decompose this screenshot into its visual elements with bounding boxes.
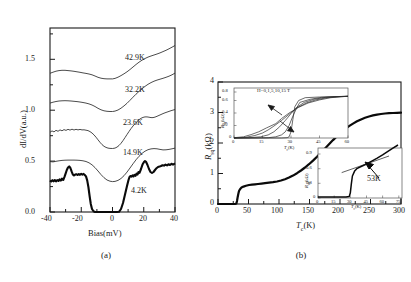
inset1-y-axis-title-unit: (kΩ)	[220, 114, 225, 123]
panel-b-xtick-1: 50	[243, 206, 251, 215]
panel-b-ytick-3: 3	[210, 107, 214, 116]
panel-b-xtick-0: 0	[215, 206, 219, 215]
inset2-xtick-1: 15	[331, 199, 336, 204]
inset2-ytick-3: 0.9	[306, 150, 312, 155]
inset1-x-axis-title: Tc(K)	[284, 145, 294, 152]
curve-14-9k	[50, 148, 175, 182]
panel-a-ytick-1: 0.5	[25, 156, 35, 165]
panel-b-caption: (b)	[281, 250, 321, 260]
inset2-xtick-0: 0	[316, 199, 318, 204]
inset2-y-axis-title-unit: (kΩ)	[304, 174, 309, 183]
panel-b-y-axis-title: Rsq(kΩ)	[203, 133, 215, 160]
panel-b-y-axis-title-main: R	[203, 155, 213, 160]
panel-b-y-axis-title-unit: (kΩ)	[203, 133, 213, 149]
inset1-x-axis-title-unit: (K)	[288, 145, 294, 150]
panel-a-x-axis-title: Bias(mV)	[88, 228, 122, 238]
panel-b-xtick-5: 250	[363, 206, 375, 215]
panel-b-xtick-2: 100	[271, 206, 283, 215]
panel-a-ytick-0: 0.0	[25, 207, 35, 216]
curve-label-32-2k: 32.2K	[125, 85, 145, 94]
panel-a-xtick-2: 0	[110, 214, 114, 223]
curve-label-23-6k: 23.6K	[123, 118, 143, 127]
curve-23-6k	[50, 110, 175, 149]
panel-b-plot	[196, 0, 411, 282]
panel-b-y-axis-title-sub: sq	[209, 150, 215, 155]
inset1-y-axis-title-main: R	[220, 125, 225, 128]
panel-b-x-axis-title-unit: (K)	[303, 220, 315, 230]
panel-b-ytick-0: 0	[210, 198, 214, 207]
inset2-x-axis-title: Tc(K)	[351, 204, 361, 211]
panel-b-xtick-4: 200	[332, 206, 344, 215]
inset1-xtick-0: 0	[232, 139, 234, 144]
inset2-y-axis-title: Rsq(kΩ)	[304, 174, 311, 188]
curve-label-14-9k: 14.9K	[123, 148, 143, 157]
panel-a: 0.0 0.5 1.0 1.5 -40 -20 0 20 40 Bias(mV)…	[0, 0, 200, 282]
inset2-ytick-2: 0.6	[306, 165, 312, 170]
panel-b-xtick-3: 150	[302, 206, 314, 215]
inset2-ytick-0: 0	[313, 194, 315, 199]
panel-b-ytick-1: 1	[210, 168, 214, 177]
inset1-ytick-3: 0.6	[222, 97, 228, 102]
inset2-xtick-5: 75	[396, 199, 401, 204]
figure-container: 0.0 0.5 1.0 1.5 -40 -20 0 20 40 Bias(mV)…	[0, 0, 411, 282]
inset1-ytick-0: 0	[229, 134, 231, 139]
panel-a-xtick-1: -20	[72, 214, 83, 223]
panel-a-xtick-3: 20	[139, 214, 147, 223]
inset1-y-axis-title-sub: sq	[223, 122, 227, 125]
inset1-xtick-2: 30	[288, 139, 293, 144]
panel-b-xtick-6: 300	[393, 206, 405, 215]
panel-b: 0 1 2 3 4 0 50 100 150 200 250 300 Tc(K)…	[196, 0, 411, 282]
inset1-xtick-4: 60	[345, 139, 350, 144]
inset2-xtick-3: 45	[364, 199, 369, 204]
curve-42-9k	[50, 46, 175, 79]
inset1-xtick-1: 15	[259, 139, 264, 144]
panel-a-caption: (a)	[86, 250, 126, 260]
inset2-xtick-4: 60	[380, 199, 385, 204]
inset1-y-axis-title: Rsq(kΩ)	[220, 114, 227, 128]
panel-b-ytick-4: 4	[210, 76, 214, 85]
panel-a-plot	[0, 0, 200, 282]
curve-label-4-2k: 4.2K	[131, 186, 147, 195]
inset2-y-axis-title-main: R	[304, 185, 309, 188]
panel-a-y-axis-title: dI/dV(a.u.)	[18, 110, 28, 148]
panel-a-xtick-0: -40	[41, 214, 52, 223]
curve-4-2k	[50, 161, 175, 212]
inset1-field-annotation: H=0,1,5,10,15 T	[257, 88, 290, 93]
panel-a-ytick-3: 1.5	[25, 54, 35, 63]
inset1-ytick-4: 0.8	[222, 88, 228, 93]
inset2-onset-annotation: 53K	[367, 174, 381, 183]
inset2-y-axis-title-sub: sq	[307, 182, 311, 185]
inset2-x-axis-title-unit: (K)	[355, 204, 361, 209]
curve-label-42-9k: 42.9K	[125, 53, 145, 62]
inset1-xtick-3: 45	[316, 139, 321, 144]
panel-a-xtick-4: 40	[170, 214, 178, 223]
panel-b-x-axis-title: Tc(K)	[296, 220, 315, 232]
